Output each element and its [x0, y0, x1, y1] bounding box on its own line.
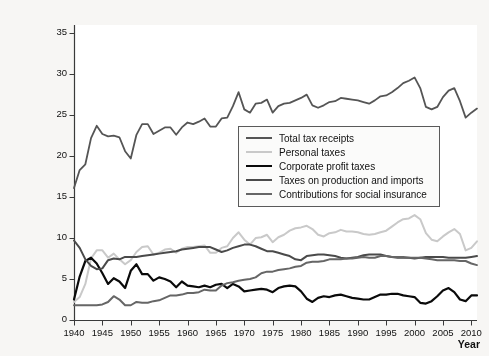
legend-label: Total tax receipts [279, 133, 354, 144]
x-axis-tick-label: 1995 [371, 327, 401, 338]
legend-color-swatch [246, 165, 272, 167]
x-axis-tick-label: 2010 [456, 327, 486, 338]
y-axis-tick-label: 5 [45, 272, 67, 283]
legend-label: Corporate profit taxes [279, 161, 375, 172]
x-axis-tick-label: 1980 [286, 327, 316, 338]
x-axis-tick-label: 1960 [173, 327, 203, 338]
y-axis-tick-label: 0 [45, 313, 67, 324]
x-axis-tick-label: 1975 [258, 327, 288, 338]
legend-item[interactable]: Personal taxes [239, 145, 439, 159]
legend-label: Taxes on production and imports [279, 175, 424, 186]
x-axis-title: Year [458, 338, 480, 350]
x-axis-tick-label: 1970 [229, 327, 259, 338]
y-axis-tick-label: 15 [45, 190, 67, 201]
x-axis-tick-label: 1955 [144, 327, 174, 338]
y-axis-tick-label: 35 [45, 26, 67, 37]
legend-label: Personal taxes [279, 147, 345, 158]
x-axis-tick-label: 1965 [201, 327, 231, 338]
y-axis-tick-label: 25 [45, 108, 67, 119]
legend-color-swatch [246, 179, 272, 181]
legend-label: Contributions for social insurance [279, 189, 427, 200]
y-axis-tick-label: 10 [45, 231, 67, 242]
chart-figure: Taxes (percent of GDP) Year 051015202530… [0, 0, 489, 356]
legend-color-swatch [246, 193, 272, 195]
chart-legend: Total tax receiptsPersonal taxesCorporat… [238, 126, 440, 207]
legend-item[interactable]: Total tax receipts [239, 131, 439, 145]
legend-item[interactable]: Taxes on production and imports [239, 173, 439, 187]
x-axis-tick-label: 1950 [116, 327, 146, 338]
x-axis-tick-label: 2005 [428, 327, 458, 338]
legend-item[interactable]: Contributions for social insurance [239, 187, 439, 201]
legend-color-swatch [246, 151, 272, 153]
x-axis-tick-label: 1990 [343, 327, 373, 338]
y-axis-tick-label: 20 [45, 149, 67, 160]
legend-color-swatch [246, 137, 272, 139]
x-axis-tick-label: 1985 [314, 327, 344, 338]
y-axis-tick-label: 30 [45, 67, 67, 78]
x-axis-tick-label: 2000 [400, 327, 430, 338]
legend-item[interactable]: Corporate profit taxes [239, 159, 439, 173]
x-axis-tick-label: 1945 [87, 327, 117, 338]
x-axis-tick-label: 1940 [59, 327, 89, 338]
